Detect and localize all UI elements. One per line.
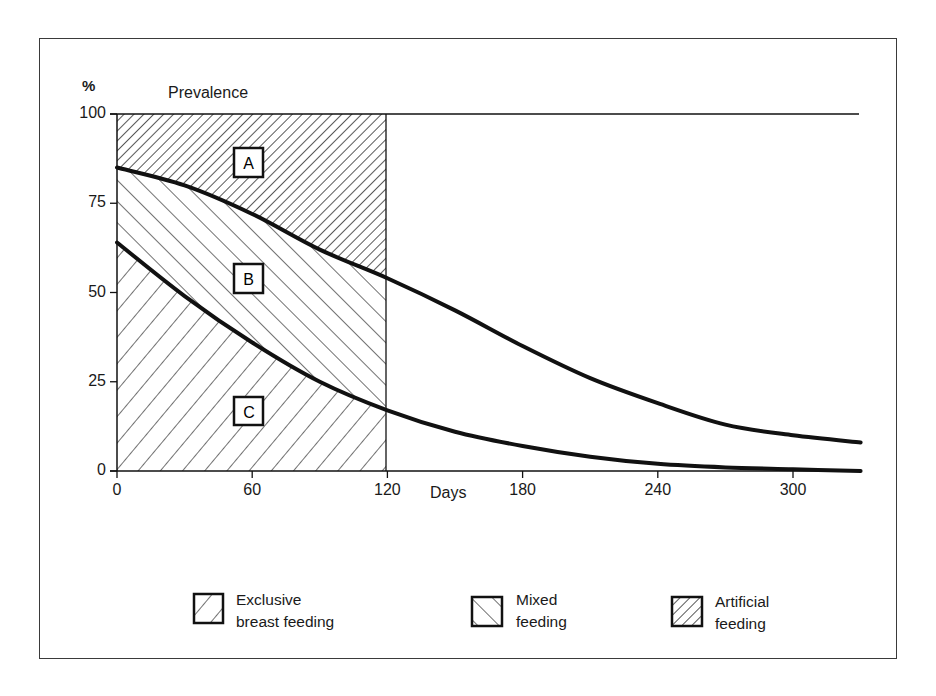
y-tick-label: 25 — [88, 372, 106, 390]
x-tick-label: 60 — [222, 481, 282, 499]
x-tick-label: 120 — [357, 481, 417, 499]
svg-text:A: A — [243, 155, 254, 172]
legend-label-line2: feeding — [715, 613, 769, 635]
legend-label-line2: feeding — [516, 611, 567, 633]
svg-text:C: C — [243, 404, 255, 421]
y-tick-label: 100 — [79, 104, 106, 122]
legend-label-line1: Artificial — [715, 591, 769, 613]
x-tick-label: 240 — [628, 481, 688, 499]
legend-swatch-artificial — [672, 597, 702, 626]
x-tick-label: 0 — [87, 481, 147, 499]
x-axis-label: Days — [430, 484, 466, 501]
y-tick-label: 0 — [97, 461, 106, 479]
svg-text:B: B — [243, 271, 254, 288]
legend-swatch-exclusive — [194, 594, 223, 623]
legend-item-artificial: Artificial feeding — [715, 596, 769, 635]
y-tick-label: 75 — [88, 193, 106, 211]
chart-title: Prevalence — [168, 84, 248, 101]
x-tick-label: 300 — [763, 481, 823, 499]
region-c-label: C — [234, 397, 263, 425]
region-b-label: B — [234, 264, 263, 293]
legend-item-mixed: Mixed feeding — [516, 594, 567, 633]
y-axis-unit-label: % — [82, 77, 95, 94]
region-a-label: A — [234, 148, 263, 177]
legend-item-exclusive: Exclusive breast feeding — [236, 594, 334, 633]
x-tick-label: 180 — [493, 481, 553, 499]
legend-label-line1: Mixed — [516, 589, 567, 611]
legend-swatch-mixed — [472, 597, 502, 626]
prevalence-chart: A B C — [0, 0, 936, 696]
legend-label-line1: Exclusive — [236, 589, 334, 611]
y-tick-label: 50 — [88, 283, 106, 301]
legend-label-line2: breast feeding — [236, 611, 334, 633]
